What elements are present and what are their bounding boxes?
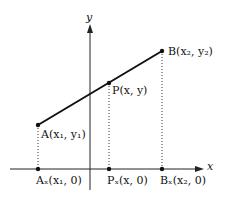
diagram-graphic [0,0,227,198]
point-px-label: Pₓ(x, 0) [107,175,148,187]
point-a-label: A(x₁, y₁) [41,129,86,141]
point-bx [160,167,164,171]
point-px [107,167,111,171]
y-axis-arrow-icon [87,24,93,33]
diagram: y x B(x₂, y₂) P(x, y) A(x₁, y₁) Aₓ(x₁, 0… [0,0,227,198]
x-axis-arrow-icon [195,166,204,172]
x-axis-label: x [207,161,213,173]
point-p [107,81,111,85]
point-b-label: B(x₂, y₂) [168,46,213,58]
point-b [160,49,164,53]
point-p-label: P(x, y) [112,85,147,97]
point-ax-label: Aₓ(x₁, 0) [36,175,82,187]
point-a [36,123,40,127]
point-ax [36,167,40,171]
y-axis-label: y [86,12,92,24]
point-bx-label: Bₓ(x₂, 0) [160,175,206,187]
